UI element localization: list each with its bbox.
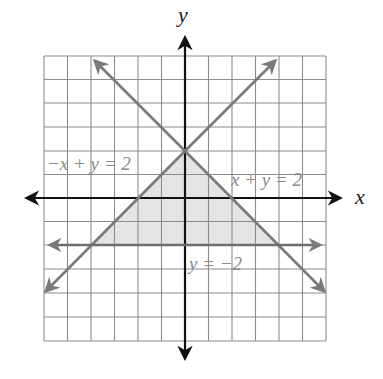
label-neg-x-plus-y-eq-2: −x + y = 2 bbox=[47, 153, 131, 174]
x-axis-label: x bbox=[354, 184, 365, 209]
label-y-eq-neg-2: y = −2 bbox=[187, 253, 243, 274]
y-axis-label: y bbox=[176, 2, 188, 27]
line-x-plus-y-eq-2 bbox=[95, 61, 185, 151]
line-neg-x-plus-y-eq-2 bbox=[185, 61, 275, 151]
coordinate-plane: y x −x + y = 2 x + y = 2 y = −2 bbox=[0, 0, 383, 379]
label-x-plus-y-eq-2: x + y = 2 bbox=[230, 169, 303, 190]
